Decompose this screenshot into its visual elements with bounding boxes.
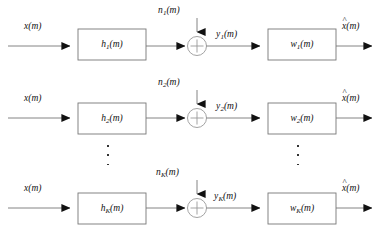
noise-label-row-2: n2(m)	[158, 78, 180, 89]
output-label-row-2: ^x(m)	[342, 94, 359, 104]
ellipsis-dot	[107, 145, 109, 147]
hat-accent-row-1: ^	[343, 16, 347, 25]
filter-box-label-row-3: hK(m)	[78, 203, 146, 215]
equalizer-arg-row-3: (m)	[301, 203, 314, 213]
equalizer-box-label-row-2: w2(m)	[268, 113, 336, 125]
output-label-row-1: ^x(m)	[342, 22, 359, 32]
equalizer-arg-row-2: (m)	[300, 113, 313, 123]
row-3-wires	[8, 180, 372, 224]
vertical-ellipsis-filters	[107, 145, 109, 173]
ellipsis-dot	[297, 164, 299, 166]
ellipsis-dot	[107, 154, 109, 156]
vertical-ellipsis-equalizers	[297, 145, 299, 173]
noise-label-row-3: nK(m)	[156, 168, 179, 179]
mid-signal-label-row-2: y2(m)	[216, 102, 237, 113]
mid-signal-label-row-3: yK(m)	[214, 192, 236, 203]
input-label-row-1: x(m)	[24, 22, 41, 32]
input-label-row-3: x(m)	[24, 184, 41, 194]
hat-accent-row-2: ^	[343, 88, 347, 97]
equalizer-arg-row-1: (m)	[300, 39, 313, 49]
filter-box-label-row-1: h1(m)	[78, 39, 146, 51]
noise-arg-row-1: (m)	[166, 5, 179, 15]
filter-arg-row-1: (m)	[110, 39, 123, 49]
ellipsis-dot	[297, 154, 299, 156]
mid-arg-row-1: (m)	[224, 29, 237, 39]
hat-accent-row-3: ^	[343, 178, 347, 187]
filter-arg-row-2: (m)	[110, 113, 123, 123]
ellipsis-dot	[107, 164, 109, 166]
ellipsis-dot	[297, 145, 299, 147]
noise-arg-row-2: (m)	[166, 77, 179, 87]
input-label-row-2: x(m)	[24, 94, 41, 104]
noise-label-row-1: n1(m)	[158, 6, 180, 17]
filter-arg-row-3: (m)	[110, 203, 123, 213]
row-2-wires	[8, 90, 372, 134]
output-label-row-3: ^x(m)	[342, 184, 359, 194]
equalizer-box-label-row-3: wK(m)	[268, 203, 336, 215]
mid-arg-row-3: (m)	[223, 191, 236, 201]
mid-signal-label-row-1: y1(m)	[216, 30, 237, 41]
filter-box-label-row-2: h2(m)	[78, 113, 146, 125]
block-diagram: x(m) h1(m) n1(m) y1(m) w1(m) ^x(m) x(m) …	[0, 0, 381, 235]
equalizer-box-label-row-1: w1(m)	[268, 39, 336, 51]
mid-arg-row-2: (m)	[224, 101, 237, 111]
noise-arg-row-3: (m)	[166, 167, 179, 177]
